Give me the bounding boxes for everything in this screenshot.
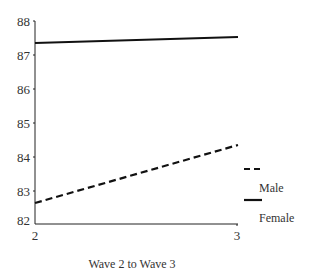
y-tick-84: 84 [17, 150, 31, 165]
y-tick-86: 86 [17, 82, 31, 97]
y-tick-85: 85 [17, 116, 30, 131]
y-tick-82: 82 [17, 213, 30, 228]
x-axis-label: Wave 2 to Wave 3 [88, 257, 175, 271]
line-chart: 88 87 86 85 84 83 82 2 3 Male Female Wav… [0, 0, 309, 280]
legend-female-label: Female [259, 211, 294, 225]
y-tick-88: 88 [17, 14, 30, 29]
y-tick-87: 87 [17, 48, 31, 63]
x-tick-2: 2 [32, 228, 39, 243]
series-female-line [35, 37, 238, 43]
series-male-line [35, 145, 238, 203]
y-tick-83: 83 [17, 184, 30, 199]
legend-male-label: Male [259, 181, 284, 195]
y-ticks [33, 21, 237, 226]
x-tick-3: 3 [234, 228, 241, 243]
